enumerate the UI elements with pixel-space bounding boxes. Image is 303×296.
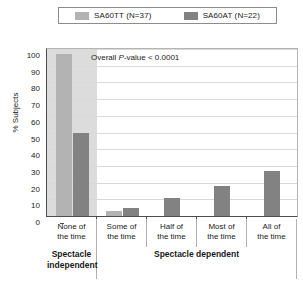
y-axis-tick-label: 30 xyxy=(31,169,40,177)
y-axis-tick-labels: 0102030405060708090100 xyxy=(18,48,40,215)
legend-swatch-sa60tt xyxy=(75,12,89,20)
legend-label-sa60at: SA60AT (N=22) xyxy=(203,11,260,20)
group-label-line: Spectacle xyxy=(47,249,96,260)
y-axis-tick-label: 50 xyxy=(31,136,40,144)
legend-entry-sa60at: SA60AT (N=22) xyxy=(184,11,260,20)
group-label-spectacle-dependent: Spectacle dependent xyxy=(97,247,297,279)
bar-sa60at xyxy=(164,198,180,216)
bar-sa60at xyxy=(73,133,89,217)
x-axis-category-label-line: Some of xyxy=(97,222,146,232)
x-axis-category-label-line: the time xyxy=(197,232,246,242)
x-axis-category-label-line: the time xyxy=(97,232,146,242)
x-axis-category-label-line: the time xyxy=(47,232,96,242)
x-axis-category-label-line: the time xyxy=(247,232,296,242)
legend-label-sa60tt: SA60TT (N=37) xyxy=(94,11,151,20)
x-axis-category-label: All ofthe time xyxy=(247,219,297,247)
y-axis-tick-label: 100 xyxy=(27,52,40,60)
x-axis-category-label-line: Most of xyxy=(197,222,246,232)
x-axis-category-label-line: None of xyxy=(47,222,96,232)
bar-group xyxy=(97,49,147,216)
bar-groups xyxy=(47,49,297,216)
x-axis-category-label-line: All of xyxy=(247,222,296,232)
bar-group xyxy=(197,49,247,216)
bar-sa60at xyxy=(123,208,139,216)
y-axis-tick-label: 70 xyxy=(31,102,40,110)
group-label-spectacle-independent: Spectacleindependent xyxy=(47,247,97,279)
chart-container: % Subjects 0102030405060708090100 Overal… xyxy=(0,40,303,296)
y-axis-tick-label: 20 xyxy=(31,186,40,194)
y-axis-tick-label: 40 xyxy=(31,152,40,160)
plot-area: Overall P-value < 0.0001 xyxy=(46,48,298,217)
legend-entry-sa60tt: SA60TT (N=37) xyxy=(75,11,151,20)
bar-group xyxy=(47,49,97,216)
group-label-line: independent xyxy=(47,260,96,271)
bar-group xyxy=(147,49,197,216)
y-axis-tick-label: 60 xyxy=(31,119,40,127)
bar-sa60tt xyxy=(56,54,72,216)
x-axis-category-label: None ofthe time xyxy=(47,219,97,247)
x-axis-category-label: Most ofthe time xyxy=(197,219,247,247)
x-axis-category-label: Some ofthe time xyxy=(97,219,147,247)
legend-swatch-sa60at xyxy=(184,12,198,20)
y-axis-tick-label: 0 xyxy=(36,219,40,227)
bar-group xyxy=(247,49,297,216)
x-axis-category-label: Half ofthe time xyxy=(147,219,197,247)
y-axis-tick-label: 90 xyxy=(31,69,40,77)
y-axis-tick-label: 10 xyxy=(31,202,40,210)
x-axis-tick-labels: None ofthe timeSome ofthe timeHalf ofthe… xyxy=(47,219,297,247)
bar-sa60tt xyxy=(106,211,122,216)
chart-legend: SA60TT (N=37) SA60AT (N=22) xyxy=(58,7,277,24)
x-axis-group-labels: Spectacleindependent Spectacle dependent xyxy=(47,247,297,279)
y-axis-tick-label: 80 xyxy=(31,85,40,93)
bar-sa60at xyxy=(264,171,280,216)
x-axis-category-label-line: the time xyxy=(147,232,196,242)
x-axis-category-label-line: Half of xyxy=(147,222,196,232)
bar-sa60at xyxy=(214,186,230,216)
